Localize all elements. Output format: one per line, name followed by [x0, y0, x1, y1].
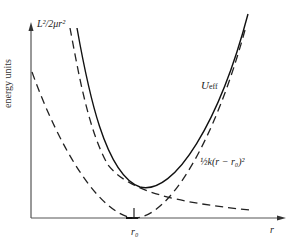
- energy-axis-label: energy units: [2, 59, 13, 108]
- r0-label: r₀: [131, 226, 138, 237]
- r-axis-label: r: [270, 224, 274, 235]
- harmonic-label: ½k(r − r₀)²: [200, 156, 245, 167]
- centrifugal-label: L²/2μr²: [37, 18, 65, 29]
- ueff-label: Ueff: [201, 79, 218, 91]
- diagram-canvas: [0, 0, 301, 246]
- y-axis-arrow-icon: [29, 22, 34, 31]
- ueff-label-main: U: [201, 79, 209, 91]
- harmonic-curve: [32, 30, 245, 218]
- x-axis-arrow-icon: [277, 216, 286, 221]
- ueff-label-sub: eff: [209, 82, 218, 91]
